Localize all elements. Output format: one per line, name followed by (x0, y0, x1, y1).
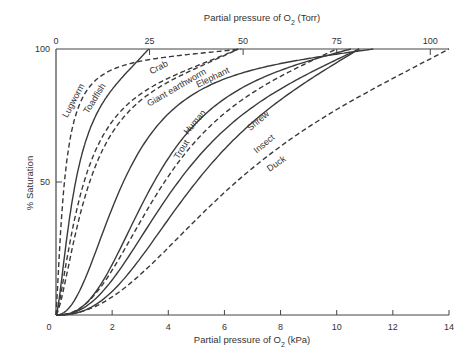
curve-label-shrew: Shrew (245, 108, 271, 132)
curve-label-duck: Duck (265, 153, 288, 173)
x-tick-label: 0 (46, 322, 51, 332)
x-tick-label: 14 (444, 322, 454, 332)
x-top-tick-label: 50 (238, 36, 248, 46)
x-axis-title-top: Partial pressure of O2 (Torr) (204, 12, 320, 26)
curve-label-lugworm: Lugworm (60, 82, 86, 119)
x-tick-label: 2 (110, 322, 115, 332)
y-tick-label: 50 (40, 177, 50, 187)
curves (56, 49, 449, 315)
x-top-tick-label: 75 (332, 36, 342, 46)
x-top-tick-label: 100 (423, 36, 438, 46)
x-top-tick-label: 25 (145, 36, 155, 46)
oxygen-dissociation-chart: 02468101214025507510050100 LugwormToadfi… (0, 0, 472, 364)
x-top-tick-label: 0 (53, 36, 58, 46)
x-tick-label: 8 (278, 322, 283, 332)
y-axis-title: % Saturation (24, 156, 35, 210)
axes: 02468101214025507510050100 (35, 36, 454, 332)
x-axis-title-bottom: Partial pressure of O2 (kPa) (194, 334, 310, 348)
x-tick-label: 4 (166, 322, 171, 332)
x-tick-label: 12 (388, 322, 398, 332)
y-tick-label: 100 (35, 44, 50, 54)
x-tick-label: 10 (332, 322, 342, 332)
curve-label-crab: Crab (148, 58, 170, 76)
x-tick-label: 6 (222, 322, 227, 332)
